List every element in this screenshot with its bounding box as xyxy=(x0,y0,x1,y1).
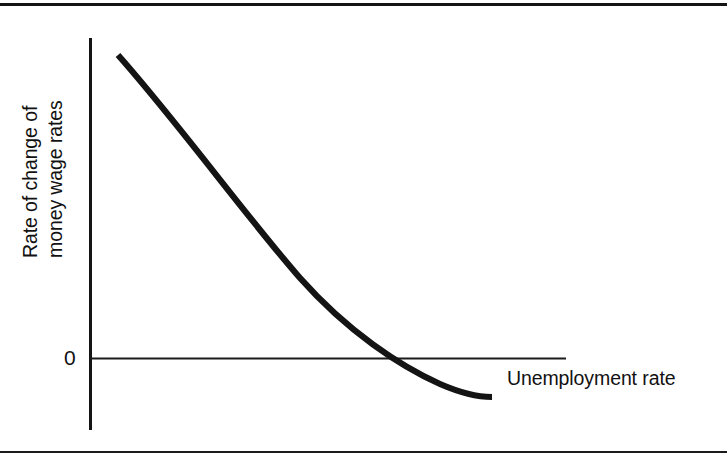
origin-zero-label: 0 xyxy=(64,346,76,370)
phillips-curve-plot xyxy=(0,0,727,461)
phillips-curve-line xyxy=(118,55,492,397)
phillips-curve-figure: Rate of change of money wage rates 0 Une… xyxy=(0,0,727,461)
x-axis-label: Unemployment rate xyxy=(507,367,675,389)
y-axis-label-line-1: Rate of change of xyxy=(18,0,43,258)
y-axis-label-line-2: money wage rates xyxy=(43,0,68,258)
y-axis-label: Rate of change of money wage rates xyxy=(18,0,68,258)
bottom-divider-rule xyxy=(0,451,727,453)
